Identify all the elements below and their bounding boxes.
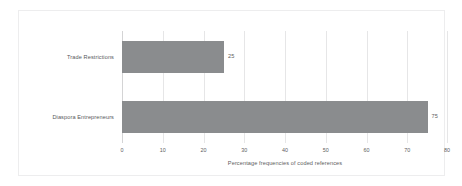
category-label-diaspora-entrepreneurs: Diaspora Entrepreneurs [24, 114, 114, 120]
bar-chart-figure: 25 75 Trade Restrictions Diaspora Entrep… [0, 0, 462, 186]
xtick-label-0: 0 [121, 147, 124, 153]
plot-area: 25 75 [122, 31, 448, 143]
xtick-label-40: 40 [282, 147, 288, 153]
bar-diaspora-entrepreneurs [122, 101, 428, 133]
category-label-trade-restrictions: Trade Restrictions [29, 54, 114, 60]
bar-value-diaspora-entrepreneurs: 75 [432, 113, 438, 119]
bar-value-trade-restrictions: 25 [228, 53, 234, 59]
xtick-label-30: 30 [241, 147, 247, 153]
chart-frame: 25 75 Trade Restrictions Diaspora Entrep… [18, 10, 445, 176]
bar-trade-restrictions [122, 41, 224, 73]
x-axis-title: Percentage frequencies of coded referenc… [122, 160, 448, 166]
xtick-label-60: 60 [364, 147, 370, 153]
xtick-label-70: 70 [404, 147, 410, 153]
xtick-label-50: 50 [323, 147, 329, 153]
xtick-label-20: 20 [201, 147, 207, 153]
gridline-80 [447, 31, 448, 143]
xtick-label-10: 10 [160, 147, 166, 153]
xtick-label-80: 80 [444, 147, 450, 153]
